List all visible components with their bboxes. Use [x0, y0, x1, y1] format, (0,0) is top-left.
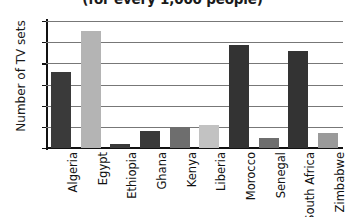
- y-axis-title: Number of TV sets: [14, 6, 28, 146]
- y-tick-mark: [42, 42, 46, 43]
- y-tick-mark: [42, 106, 46, 107]
- x-label-algeria: Algeria: [66, 152, 80, 192]
- y-tick-mark: [42, 21, 46, 22]
- x-label-zimbabwe: Zimbabwe: [333, 152, 345, 212]
- bar-egypt: [81, 31, 101, 148]
- bar-liberia: [199, 125, 219, 148]
- x-label-morocco: Morocco: [244, 152, 258, 200]
- x-label-egypt: Egypt: [96, 152, 110, 185]
- x-axis-label-group: AlgeriaEgyptEthiopiaGhanaKenyaLiberiaMor…: [46, 152, 343, 217]
- x-label-kenya: Kenya: [185, 152, 199, 187]
- bar-senegal: [259, 138, 279, 148]
- x-label-senegal: Senegal: [274, 152, 288, 198]
- bar-south-africa: [288, 51, 308, 148]
- bar-zimbabwe: [318, 133, 338, 148]
- bar-algeria: [51, 72, 71, 148]
- y-tick-mark: [42, 127, 46, 128]
- plot-area: 020406080100120: [46, 21, 343, 148]
- gridline: [46, 21, 343, 22]
- y-tick-mark: [42, 85, 46, 86]
- bar-ghana: [140, 131, 160, 148]
- x-label-ghana: Ghana: [155, 152, 169, 190]
- bar-ethiopia: [110, 144, 130, 148]
- x-label-ethiopia: Ethiopia: [125, 152, 139, 199]
- bar-kenya: [170, 127, 190, 148]
- y-tick-mark: [42, 63, 46, 64]
- bar-morocco: [229, 45, 249, 148]
- y-tick-mark: [42, 148, 46, 149]
- x-label-south-africa: South Africa: [303, 152, 317, 217]
- chart-title: (for every 1,000 people): [0, 0, 345, 7]
- x-label-liberia: Liberia: [214, 152, 228, 191]
